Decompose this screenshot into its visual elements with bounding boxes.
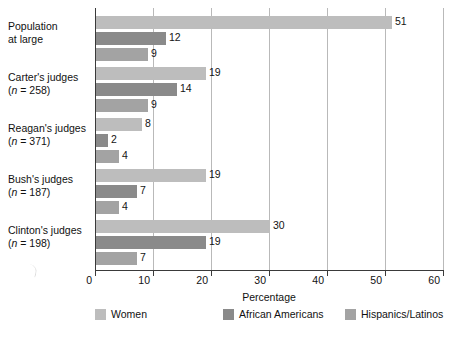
category-label-line: Population: [8, 20, 92, 33]
category-label: Clinton's judges(n = 198): [8, 224, 92, 249]
legend-swatch-icon: [95, 309, 106, 320]
category-label-line: Clinton's judges: [8, 224, 92, 237]
legend-item[interactable]: African Americans: [223, 308, 324, 321]
category-sample-size: (n = 258): [8, 84, 92, 97]
category-sample-size: (n = 371): [8, 135, 92, 148]
bar-value-label: 14: [177, 82, 192, 95]
legend-swatch-icon: [345, 309, 356, 320]
x-tick-50: [385, 271, 386, 276]
bar-value-label: 9: [148, 47, 157, 60]
page-curl-artifact: [21, 262, 38, 277]
x-tick-40: [327, 271, 328, 276]
plot-area: 5112919149824197430197 0102030405060 Per…: [95, 8, 443, 270]
bar-row: 9: [96, 48, 443, 61]
legend-swatch-icon: [223, 309, 234, 320]
bar-hispanics-latinos: [96, 252, 137, 265]
bar-row: 7: [96, 185, 443, 198]
bar-value-label: 19: [206, 168, 221, 181]
bar-group: 1974: [96, 169, 443, 217]
bar-value-label: 8: [142, 117, 151, 130]
legend-label: Women: [111, 308, 147, 321]
bar-women: [96, 169, 206, 182]
bar-value-label: 19: [206, 235, 221, 248]
bar-african-americans: [96, 185, 137, 198]
x-tick-30: [269, 271, 270, 276]
category-label: Bush's judges(n = 187): [8, 173, 92, 198]
bar-row: 12: [96, 32, 443, 45]
x-tick-label-20: 20: [196, 274, 211, 286]
x-tick-label-40: 40: [312, 274, 327, 286]
chart-legend: WomenAfrican AmericansHispanics/Latinos: [95, 308, 473, 326]
bar-row: 8: [96, 118, 443, 131]
bar-group: 51129: [96, 16, 443, 64]
x-tick-label-60: 60: [428, 274, 443, 286]
category-label-line: Carter's judges: [8, 71, 92, 84]
x-tick-label-30: 30: [254, 274, 269, 286]
bar-value-label: 4: [119, 149, 128, 162]
bar-row: 7: [96, 252, 443, 265]
bar-value-label: 4: [119, 200, 128, 213]
bar-row: 2: [96, 134, 443, 147]
bar-women: [96, 67, 206, 80]
legend-label: Hispanics/Latinos: [361, 308, 443, 321]
legend-label: African Americans: [239, 308, 324, 321]
legend-item[interactable]: Women: [95, 308, 147, 321]
bar-row: 19: [96, 67, 443, 80]
category-label-line: Reagan's judges: [8, 122, 92, 135]
bar-hispanics-latinos: [96, 48, 148, 61]
gridline-60: [443, 8, 444, 270]
bar-women: [96, 16, 392, 29]
category-label-line: at large: [8, 33, 92, 46]
bar-value-label: 7: [137, 251, 146, 264]
x-tick-label-50: 50: [370, 274, 385, 286]
category-label: Populationat large: [8, 20, 92, 45]
category-sample-size: (n = 187): [8, 186, 92, 199]
bar-hispanics-latinos: [96, 201, 119, 214]
x-tick-label-10: 10: [138, 274, 153, 286]
category-label-line: Bush's judges: [8, 173, 92, 186]
bar-group: 19149: [96, 67, 443, 115]
bar-chart: Populationat largeCarter's judges(n = 25…: [0, 0, 473, 337]
category-label: Reagan's judges(n = 371): [8, 122, 92, 147]
bar-women: [96, 118, 142, 131]
x-tick-60: [443, 271, 444, 276]
bar-value-label: 12: [166, 31, 181, 44]
bar-african-americans: [96, 236, 206, 249]
bar-row: 9: [96, 99, 443, 112]
bar-value-label: 19: [206, 66, 221, 79]
bar-row: 4: [96, 150, 443, 163]
x-tick-10: [153, 271, 154, 276]
bar-african-americans: [96, 134, 108, 147]
bar-value-label: 9: [148, 98, 157, 111]
bar-row: 19: [96, 169, 443, 182]
legend-item[interactable]: Hispanics/Latinos: [345, 308, 443, 321]
bar-value-label: 30: [270, 219, 285, 232]
bar-row: 30: [96, 220, 443, 233]
bar-hispanics-latinos: [96, 150, 119, 163]
bar-african-americans: [96, 83, 177, 96]
x-tick-0: [95, 271, 96, 276]
bar-group: 30197: [96, 220, 443, 268]
bar-value-label: 7: [137, 184, 146, 197]
bar-row: 51: [96, 16, 443, 29]
bar-group: 824: [96, 118, 443, 166]
bar-african-americans: [96, 32, 166, 45]
x-axis-title: Percentage: [95, 291, 443, 303]
x-tick-20: [211, 271, 212, 276]
category-label: Carter's judges(n = 258): [8, 71, 92, 96]
category-sample-size: (n = 198): [8, 237, 92, 250]
bar-value-label: 51: [392, 15, 407, 28]
bar-row: 19: [96, 236, 443, 249]
bar-row: 14: [96, 83, 443, 96]
x-tick-label-0: 0: [86, 274, 95, 286]
bar-value-label: 2: [108, 133, 117, 146]
bar-hispanics-latinos: [96, 99, 148, 112]
bar-women: [96, 220, 270, 233]
bar-row: 4: [96, 201, 443, 214]
